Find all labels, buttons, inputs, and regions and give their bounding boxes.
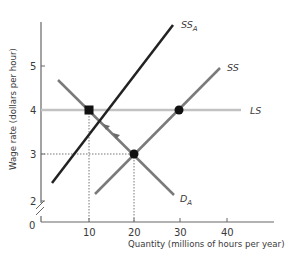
origin-label: 0	[29, 220, 35, 231]
chart-canvas: 5 4 3 2 0 10 20 30 40 Quantity (millions…	[0, 0, 289, 262]
da-label: DA	[180, 193, 192, 207]
ssa-label: SSA	[181, 19, 198, 33]
x-tick-30: 30	[174, 227, 187, 238]
x-tick-40: 40	[221, 227, 234, 238]
x-tick-20: 20	[128, 227, 141, 238]
equilibrium-point-10-4	[85, 106, 94, 115]
x-axis-title: Quantity (millions of hours per year)	[128, 239, 285, 249]
equilibrium-point-20-3	[130, 150, 139, 159]
equilibrium-point-30-4	[175, 106, 184, 115]
y-axis-title: Wage rate (dollars per hour)	[8, 48, 18, 170]
y-tick-2: 2	[30, 196, 36, 207]
y-tick-3: 3	[30, 149, 36, 160]
ssa-curve	[52, 25, 173, 183]
ls-label: LS	[250, 105, 261, 116]
ss-curve	[95, 68, 220, 194]
axis-break-icon	[36, 201, 44, 215]
dotted-guides	[41, 110, 134, 222]
axes	[36, 22, 274, 222]
ss-label: SS	[227, 62, 239, 73]
x-tick-10: 10	[83, 227, 96, 238]
y-tick-4: 4	[30, 105, 36, 116]
y-tick-5: 5	[30, 61, 36, 72]
